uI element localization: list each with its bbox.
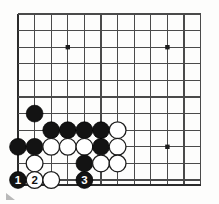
stone-white: [26, 155, 43, 172]
stone-black: [26, 105, 43, 122]
stone-black-e[interactable]: [93, 122, 110, 139]
page-corner-mark: [6, 193, 15, 200]
stone-white: [93, 155, 110, 172]
star-point-upper-right: [165, 45, 169, 49]
stone-black-a[interactable]: [26, 105, 43, 122]
stone-black-g[interactable]: [10, 138, 27, 155]
stone-white-m[interactable]: [109, 138, 126, 155]
stone-black: [93, 122, 110, 139]
stone-move-1[interactable]: 1: [10, 172, 27, 189]
stone-white: [43, 172, 60, 189]
stone-move-number: 1: [15, 174, 22, 186]
star-point-lower-right: [165, 145, 169, 149]
stone-white-r[interactable]: [43, 172, 60, 189]
stone-white: [43, 138, 60, 155]
star-point-upper-left: [66, 45, 70, 49]
stone-move-number: 2: [31, 174, 37, 186]
stone-white: [59, 138, 76, 155]
stone-white-i[interactable]: [43, 138, 60, 155]
stone-black: [93, 138, 110, 155]
stone-white-n[interactable]: [26, 155, 43, 172]
stone-white: [109, 155, 126, 172]
stone-move-number: 3: [81, 174, 87, 186]
stone-black-b[interactable]: [43, 122, 60, 139]
go-board-diagram: 123: [0, 0, 219, 204]
stone-black-h[interactable]: [26, 138, 43, 155]
stone-black: [43, 122, 60, 139]
stone-black: [59, 122, 76, 139]
stone-white-f[interactable]: [109, 122, 126, 139]
stone-black-o[interactable]: [76, 155, 93, 172]
stone-move-2[interactable]: 2: [26, 172, 43, 189]
stone-white-p[interactable]: [93, 155, 110, 172]
stone-white-j[interactable]: [59, 138, 76, 155]
stone-black: [10, 138, 27, 155]
stone-white-q[interactable]: [109, 155, 126, 172]
stone-white: [76, 138, 93, 155]
stone-black-l[interactable]: [93, 138, 110, 155]
stone-black-d[interactable]: [76, 122, 93, 139]
stone-black-c[interactable]: [59, 122, 76, 139]
stone-white: [109, 138, 126, 155]
stone-move-3[interactable]: 3: [76, 172, 93, 189]
stone-black: [26, 138, 43, 155]
go-board-canvas[interactable]: 123: [0, 0, 219, 204]
stone-white-k[interactable]: [76, 138, 93, 155]
stone-black: [76, 155, 93, 172]
stone-black: [76, 122, 93, 139]
stone-white: [109, 122, 126, 139]
corner-triangle-icon: [6, 193, 15, 200]
